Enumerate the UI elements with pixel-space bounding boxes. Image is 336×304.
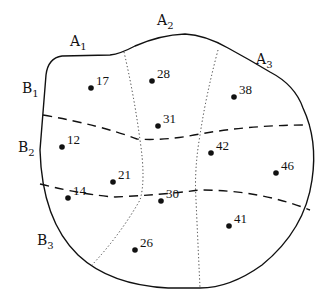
point-label: 28	[157, 66, 170, 81]
point-marker	[65, 195, 71, 201]
point-label: 26	[140, 235, 154, 250]
point-label: 12	[67, 132, 80, 147]
point-marker	[158, 198, 164, 204]
sample-point: 17	[88, 73, 109, 91]
column-label-a2: A2	[156, 12, 174, 31]
point-marker	[231, 94, 237, 100]
point-label: 14	[73, 183, 87, 198]
sample-point: 30	[158, 186, 179, 204]
point-marker	[132, 247, 138, 253]
point-label: 38	[239, 82, 252, 97]
point-label: 31	[163, 111, 176, 126]
column-labels: A1A2A3	[69, 12, 273, 70]
point-marker	[273, 170, 279, 176]
point-label: 42	[216, 138, 229, 153]
row-divider-b1-b2	[43, 115, 310, 139]
row-label-b2: B2	[18, 139, 35, 158]
row-label-b1: B1	[22, 80, 39, 99]
point-label: 46	[281, 158, 295, 173]
sample-point: 42	[208, 138, 229, 156]
column-divider-a2-a3	[196, 50, 219, 288]
sample-point: 21	[110, 167, 131, 185]
sample-point: 38	[231, 82, 252, 100]
point-marker	[59, 144, 65, 150]
row-label-b3: B3	[37, 232, 54, 251]
sample-point: 14	[65, 183, 86, 201]
point-label: 30	[166, 186, 179, 201]
point-label: 17	[96, 73, 110, 88]
point-marker	[110, 179, 116, 185]
sample-point: 28	[149, 66, 170, 84]
sample-point: 12	[59, 132, 80, 150]
column-label-a1: A1	[69, 33, 87, 52]
row-labels: B1B2B3	[18, 80, 54, 251]
column-label-a3: A3	[255, 51, 273, 70]
point-marker	[149, 78, 155, 84]
sample-point: 26	[132, 235, 153, 253]
sample-point: 46	[273, 158, 294, 176]
point-label: 41	[234, 211, 247, 226]
point-marker	[88, 85, 94, 91]
point-marker	[208, 150, 214, 156]
point-marker	[226, 223, 232, 229]
stratified-region-diagram: A1A2A3 B1B2B3 172838311242462114304126	[0, 0, 336, 304]
point-marker	[155, 123, 161, 129]
point-label: 21	[118, 167, 131, 182]
sample-points: 172838311242462114304126	[59, 66, 294, 253]
outer-boundary	[40, 34, 314, 288]
sample-point: 41	[226, 211, 247, 229]
sample-point: 31	[155, 111, 176, 129]
